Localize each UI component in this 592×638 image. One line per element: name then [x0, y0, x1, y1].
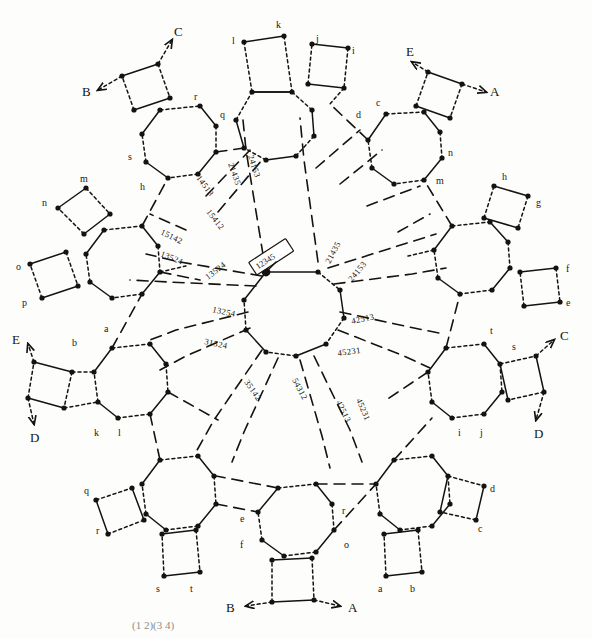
sat-right-label-2: f [566, 263, 570, 274]
sat-right-label-3: e [566, 297, 571, 308]
arrow-label-C-top: C [174, 24, 183, 39]
sat-left-label-0: m [80, 173, 88, 184]
sat-tl-label-1: q [220, 109, 225, 120]
arrow-D-right [536, 392, 544, 420]
satellite-top-right: E A c d n m [356, 44, 500, 187]
arrow-C-top-left [158, 40, 172, 64]
sat-top-label-3: i [352, 45, 355, 56]
perm-label-3: 45231 [337, 345, 361, 358]
center-permutation-labels: 21435 24153 42513 45231 54312 35142 3152… [203, 240, 375, 403]
sat-tr-label-1: d [356, 109, 361, 120]
arrow-E-top-right [412, 62, 428, 72]
arrow-label-A-topright: A [490, 84, 500, 99]
sat-top-label-2: j [315, 33, 319, 44]
sat-ll-label-3: l [118, 427, 121, 438]
sat-lr-label-3: j [479, 427, 483, 438]
sat-left-label-2: o [16, 261, 21, 272]
central-octagon [241, 268, 346, 359]
arrow-label-E-topright: E [406, 44, 414, 59]
sat-ll-label-2: k [94, 427, 99, 438]
arrow-C-right [536, 340, 554, 356]
perm-label-0: 21435 [323, 240, 343, 265]
arrow-E-left [28, 344, 34, 362]
sat-bot-label-1: f [240, 539, 244, 550]
arrow-B-top-left [98, 76, 122, 90]
satellite-right: h g f e [408, 171, 571, 309]
satellite-top: l k j i [232, 19, 355, 163]
spoke-label-1: 15412 [204, 207, 226, 231]
sat-tr-label-2: n [448, 147, 453, 158]
satellite-bottom: B A e f r o [226, 481, 358, 615]
satellite-lower-left: E D a b k l [12, 323, 171, 445]
arrow-label-C-right: C [560, 328, 569, 343]
sat-bot-label-0: e [240, 513, 245, 524]
sat-tl-label-2: s [128, 151, 132, 162]
sat-br-label-1: c [478, 523, 483, 534]
sat-lr-label-0: t [490, 325, 493, 336]
sat-tr-label-3: m [436, 175, 444, 186]
sat-lr-label-2: i [458, 427, 461, 438]
arrow-label-D-right: D [534, 426, 543, 441]
perm-label-5: 35142 [242, 378, 263, 403]
satellite-bottom-left: q r s t [84, 453, 219, 594]
inter-satellite-links [112, 104, 460, 530]
sat-bl-label-3: t [190, 583, 193, 594]
perm-label-4: 54312 [290, 376, 310, 401]
sat-br-label-2: a [378, 583, 383, 594]
sat-tr-label-0: c [376, 97, 381, 108]
sat-ll-label-0: a [104, 323, 109, 334]
perm-label-1: 24153 [346, 259, 369, 283]
sat-bot-label-2: r [342, 505, 346, 516]
spoke-label-0: 14513 [194, 173, 216, 198]
sat-right-label-1: g [536, 197, 541, 208]
spoke-label-2: 15142 [159, 227, 184, 246]
sat-top-label-0: l [232, 35, 235, 46]
sat-right-label-0: h [502, 171, 507, 182]
arrow-label-E-left: E [12, 332, 20, 347]
sat-br-label-3: b [410, 583, 415, 594]
spoke-label-6: 45231 [354, 397, 373, 422]
satellite-bottom-right: d c a b [373, 453, 495, 594]
perm-label-7: 13254 [212, 304, 237, 319]
arrow-label-D-left: D [30, 430, 39, 445]
sat-left-label-1: n [42, 197, 47, 208]
spoke-label-4: 21435 [226, 161, 243, 186]
arrow-label-B-top: B [82, 84, 91, 99]
arrow-label-A-bottom: A [348, 600, 358, 615]
spoke-lines [130, 118, 446, 468]
sat-bl-label-2: s [156, 583, 160, 594]
sat-ll-label-1: b [72, 337, 77, 348]
sat-bl-label-0: q [84, 485, 89, 496]
spoke-label-7: 42513 [334, 398, 353, 423]
figure-caption: (1 2)(3 4) [132, 619, 174, 631]
satellite-top-left: C B r q s h [82, 24, 225, 192]
sat-br-label-0: d [490, 483, 495, 494]
sat-lr-label-1: s [512, 341, 516, 352]
arrow-label-B-bottom: B [226, 600, 235, 615]
sat-left-label-3: p [22, 297, 27, 308]
arrow-B-bottom [246, 602, 272, 606]
arrow-A-bottom [314, 600, 340, 606]
figure-canvas: 21435 24153 42513 45231 54312 35142 3152… [0, 0, 592, 638]
arrow-D-left [28, 398, 34, 424]
spoke-label-3: 13524 [159, 249, 185, 267]
sat-bot-label-3: o [344, 539, 349, 550]
sat-tl-label-3: h [140, 181, 145, 192]
sat-tl-label-0: r [194, 91, 198, 102]
sat-top-label-1: k [276, 19, 281, 30]
diagram-svg: 21435 24153 42513 45231 54312 35142 3152… [0, 0, 592, 638]
identity-box-label: 12345 [249, 238, 294, 275]
perm-label-2: 42513 [350, 311, 375, 326]
perm-label-8: 13524 [203, 259, 228, 281]
sat-bl-label-1: r [96, 525, 100, 536]
arrow-A-top-right [462, 84, 486, 92]
